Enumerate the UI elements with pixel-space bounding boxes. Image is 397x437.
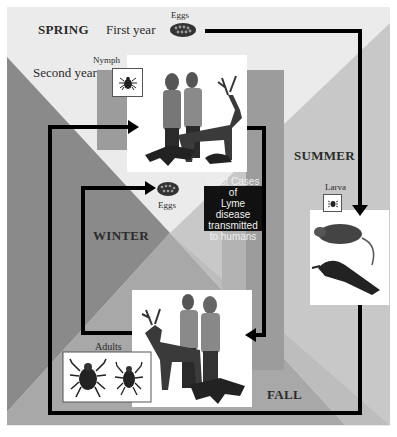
eggs-icon-top [170,23,196,37]
callout-line-2: Lyme disease [204,198,262,220]
nymph-tick-icon [119,75,137,91]
lyme-transmission-callout: Most Cases of Lyme disease transmitted t… [204,186,262,231]
eggs-top-label: Eggs [171,10,189,20]
adult-female-tick-icon [68,355,108,399]
season-winter-label: WINTER [93,228,149,244]
season-fall-label: FALL [267,387,302,403]
larva-tick-box [323,194,342,212]
adults-label: Adults [95,341,122,352]
first-year-label: First year [106,22,155,38]
nymph-label: Nymph [93,55,120,65]
callout-line-4: to humans [204,231,262,242]
adult-ticks [66,355,148,400]
season-spring-label: SPRING [38,22,89,38]
callout-line-1: Most Cases of [204,176,262,198]
nymph-tick-box [112,68,143,97]
larva-label: Larva [325,182,346,192]
adult-male-tick-icon [112,359,146,397]
callout-line-3: transmitted [204,220,262,231]
eggs-mid-label: Eggs [158,200,176,210]
eggs-icon-mid [157,182,179,196]
larva-tick-icon [328,199,338,208]
second-year-label: Second year [33,65,97,81]
season-summer-label: SUMMER [294,148,355,164]
